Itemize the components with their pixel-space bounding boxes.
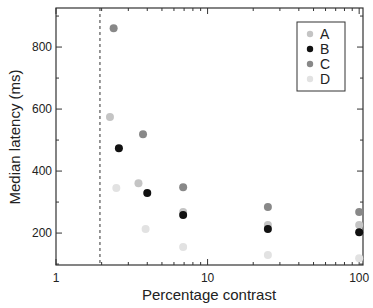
data-point (355, 208, 363, 216)
data-point (179, 211, 187, 219)
series-b (115, 144, 363, 236)
y-tick-label: 200 (32, 226, 52, 240)
data-point (179, 243, 187, 251)
data-point (139, 130, 147, 138)
y-axis-title: Median latency (ms) (6, 69, 23, 204)
data-point (143, 189, 151, 197)
x-tick-label: 100 (349, 271, 369, 285)
data-point (106, 113, 114, 121)
data-point (115, 144, 123, 152)
data-point (355, 254, 363, 262)
data-point (264, 203, 272, 211)
legend-label-d: D (320, 71, 330, 87)
legend-label-a: A (320, 26, 330, 42)
x-axis-title: Percentage contrast (142, 286, 277, 303)
data-point (142, 225, 150, 233)
chart-canvas: ABCD 110100200400600800 Percentage contr… (0, 0, 373, 308)
legend-label-b: B (320, 41, 329, 57)
data-point (179, 183, 187, 191)
legend: ABCD (297, 22, 345, 91)
legend-marker-d (307, 76, 313, 82)
legend-marker-a (307, 31, 313, 37)
data-point (355, 228, 363, 236)
data-point (264, 251, 272, 259)
y-tick-label: 600 (32, 102, 52, 116)
data-point (355, 221, 363, 229)
y-tick-label: 400 (32, 164, 52, 178)
legend-marker-c (307, 61, 313, 67)
scatter-chart: ABCD 110100200400600800 Percentage contr… (0, 0, 373, 308)
y-tick-label: 800 (32, 40, 52, 54)
data-point (112, 184, 120, 192)
x-tick-label: 10 (201, 271, 215, 285)
data-point (110, 24, 118, 32)
legend-marker-b (307, 46, 313, 52)
data-point (134, 179, 142, 187)
data-point (264, 225, 272, 233)
legend-label-c: C (320, 56, 330, 72)
x-tick-label: 1 (53, 271, 60, 285)
